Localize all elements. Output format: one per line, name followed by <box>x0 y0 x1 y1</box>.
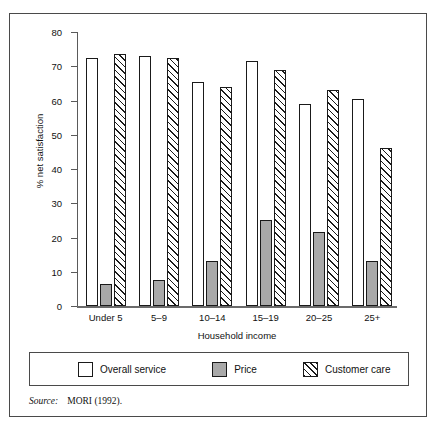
source-label: Source: <box>29 396 58 406</box>
plot-area: 0 10 20 30 40 50 60 70 80 Under 55–910–1… <box>77 32 397 306</box>
hatched-square-icon <box>303 362 318 377</box>
source-note: Source:MORI (1992). <box>29 396 122 406</box>
y-tick-label-60: 60 <box>51 95 62 106</box>
y-tick-30: 30 <box>71 203 77 204</box>
y-tick-label-20: 20 <box>51 232 62 243</box>
y-tick-label-10: 10 <box>51 266 62 277</box>
y-tick-80: 80 <box>71 32 77 33</box>
x-axis-label: Household income <box>77 330 397 341</box>
legend: Overall service Price Customer care <box>29 352 409 386</box>
bar-overall-service <box>192 82 204 306</box>
bar-customer-care <box>114 54 126 306</box>
bar-price <box>206 261 218 306</box>
legend-label-overall-service: Overall service <box>100 364 166 375</box>
y-tick-label-40: 40 <box>51 164 62 175</box>
y-tick-40: 40 <box>71 169 77 170</box>
bar-price <box>100 284 112 306</box>
y-tick-70: 70 <box>71 66 77 67</box>
bar-customer-care <box>380 148 392 306</box>
x-tick-label: 10–14 <box>199 312 225 323</box>
bar-customer-care <box>274 70 286 306</box>
y-tick-60: 60 <box>71 101 77 102</box>
bar-group: 25+ <box>352 32 392 306</box>
y-axis-label: % net satisfaction <box>32 14 46 288</box>
gray-square-icon <box>212 362 227 377</box>
y-axis-label-text: % net satisfaction <box>34 114 45 188</box>
bar-price <box>313 232 325 306</box>
legend-item-overall-service: Overall service <box>78 362 166 377</box>
bar-group: 20–25 <box>299 32 339 306</box>
x-tick-label: 25+ <box>364 312 380 323</box>
y-axis-line <box>77 32 78 306</box>
white-square-icon <box>78 362 93 377</box>
bar-group: Under 5 <box>86 32 126 306</box>
legend-label-customer-care: Customer care <box>325 364 391 375</box>
x-tick-label: 5–9 <box>151 312 167 323</box>
bar-customer-care <box>220 87 232 306</box>
y-tick-label-80: 80 <box>51 27 62 38</box>
bar-price <box>366 261 378 306</box>
bar-customer-care <box>327 90 339 306</box>
y-tick-label-70: 70 <box>51 61 62 72</box>
legend-item-price: Price <box>212 362 257 377</box>
x-axis-line <box>77 306 397 308</box>
bar-group: 5–9 <box>139 32 179 306</box>
bar-overall-service <box>86 58 98 306</box>
bar-overall-service <box>246 61 258 306</box>
y-tick-label-50: 50 <box>51 129 62 140</box>
y-tick-label-30: 30 <box>51 198 62 209</box>
legend-label-price: Price <box>234 364 257 375</box>
y-tick-label-0: 0 <box>57 301 62 312</box>
x-tick-label: 15–19 <box>252 312 278 323</box>
y-tick-0: 0 <box>71 306 77 307</box>
x-tick-label: Under 5 <box>89 312 123 323</box>
legend-item-customer-care: Customer care <box>303 362 391 377</box>
bar-overall-service <box>352 99 364 306</box>
bar-group: 15–19 <box>246 32 286 306</box>
bar-price <box>153 280 165 306</box>
bar-overall-service <box>299 104 311 306</box>
bar-group: 10–14 <box>192 32 232 306</box>
x-tick-label: 20–25 <box>306 312 332 323</box>
y-tick-50: 50 <box>71 135 77 136</box>
bar-price <box>260 220 272 306</box>
bar-overall-service <box>139 56 151 306</box>
figure-frame: % net satisfaction 0 10 20 30 40 50 60 7… <box>9 13 427 417</box>
y-tick-20: 20 <box>71 238 77 239</box>
y-tick-10: 10 <box>71 272 77 273</box>
bar-customer-care <box>167 58 179 306</box>
source-text: MORI (1992). <box>67 396 122 406</box>
